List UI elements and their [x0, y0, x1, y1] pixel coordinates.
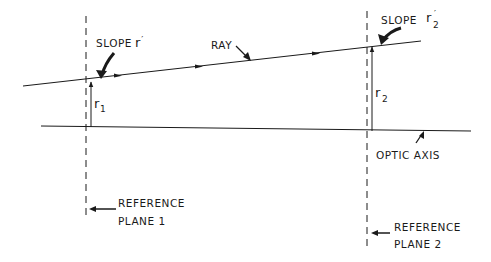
slope-right-label: SLOPE	[381, 14, 417, 26]
ray-arrow-3	[312, 51, 320, 55]
r2-subscript: 2	[382, 94, 388, 104]
ray-arrow-1	[114, 74, 122, 78]
reference-plane-2-label-line2: PLANE 2	[394, 238, 442, 250]
reference-plane-2-label-line1: REFERENCE	[394, 221, 461, 233]
ray-label: RAY	[211, 39, 232, 51]
ray-transfer-diagram: SLOPE r′ RAY SLOPE r 2 ′ r 1 r 2 OPTIC A…	[0, 0, 491, 262]
slope-right-subscript: 2	[433, 20, 439, 30]
reference-plane-1-label-line1: REFERENCE	[118, 197, 185, 209]
slope-right-symbol: r	[426, 10, 432, 25]
reference-plane-1-pointer-head	[89, 206, 96, 212]
reference-plane-2-pointer-head	[371, 230, 378, 236]
slope-left-label: SLOPE	[96, 37, 132, 49]
ray-arrow-2	[195, 64, 203, 68]
slope-right-prime: ′	[434, 9, 436, 19]
reference-plane-1-label-line2: PLANE 1	[118, 215, 166, 227]
slope-left-symbol: r′	[135, 35, 143, 50]
r2-label: r	[375, 85, 381, 100]
optic-axis-line	[41, 126, 471, 131]
optic-axis-label: OPTIC AXIS	[376, 149, 440, 161]
r1-subscript: 1	[100, 104, 106, 114]
